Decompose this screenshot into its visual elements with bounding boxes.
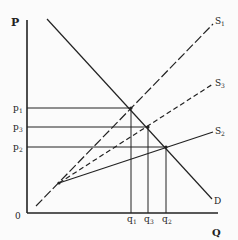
curve-label-s2: S 2 [215,126,225,137]
curve-label-s1: S 1 [215,16,225,27]
svg-text:1: 1 [19,107,23,114]
svg-text:2: 2 [19,146,23,153]
svg-text:2: 2 [168,218,172,225]
equilibrium-point-1 [129,106,132,109]
price-label-p3: p 3 [13,122,23,133]
equilibrium-point-3 [146,125,149,128]
x-axis-label: Q [212,227,221,238]
price-label-p1: p 1 [13,103,23,114]
origin-label: 0 [15,211,21,221]
curve-label-s3: S 3 [215,78,225,89]
curve-label-d: D [214,196,221,206]
convergence-point [57,181,60,184]
supply-demand-diagram: P Q 0 p 1 p 3 p 2 q 1 q 3 q 2 S 1 S 3 S … [0,0,238,240]
equilibrium-point-2 [164,145,167,148]
quantity-label-q2: q 2 [162,214,172,225]
svg-text:1: 1 [221,20,225,27]
svg-text:3: 3 [221,82,225,89]
svg-text:2: 2 [221,130,225,137]
svg-text:1: 1 [133,218,137,225]
svg-text:3: 3 [150,218,154,225]
supply-curve-s3 [59,84,213,183]
svg-text:3: 3 [19,126,23,133]
supply-curve-s1 [36,24,213,206]
quantity-label-q1: q 1 [127,214,137,225]
y-axis-label: P [11,16,19,29]
quantity-label-q3: q 3 [144,214,154,225]
price-label-p2: p 2 [13,142,23,153]
